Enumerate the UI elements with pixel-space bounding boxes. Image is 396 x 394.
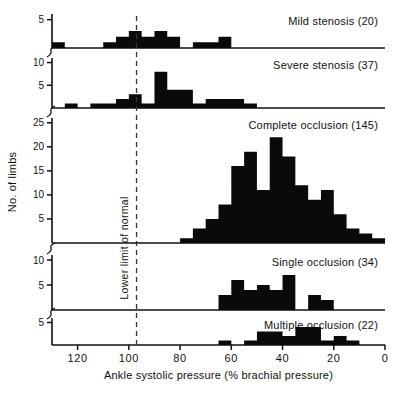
axis-break-mark [47, 243, 55, 254]
y-tick-label: 5 [38, 80, 44, 91]
y-tick-label: 5 [38, 213, 44, 224]
y-tick-label: 25 [33, 117, 45, 128]
panel-single-occlusion: 510Single occlusion (34) [33, 255, 385, 311]
y-tick-label: 10 [33, 57, 45, 68]
y-tick-label: 15 [33, 165, 45, 176]
y-tick-label: 5 [38, 14, 44, 25]
panel-label-mild-stenosis: Mild stenosis (20) [288, 15, 378, 27]
lower-limit-label: Lower limit of normal [118, 196, 130, 299]
x-tick-label: 40 [276, 352, 289, 364]
x-tick-label: 20 [327, 352, 340, 364]
y-tick-label: 5 [38, 317, 44, 328]
x-tick-label: 120 [68, 352, 88, 364]
y-tick-label: 5 [38, 280, 44, 291]
x-tick-label: 0 [382, 352, 389, 364]
histogram-bars [219, 275, 334, 310]
y-tick-label: 10 [33, 255, 45, 266]
histogram-bars [65, 72, 257, 108]
y-axis-title: No. of limbs [6, 151, 18, 212]
panel-multiple-occlusion: 5Multiple occlusion (22) [38, 317, 385, 345]
panel-label-complete-occlusion: Complete occlusion (145) [248, 119, 378, 131]
panel-label-multiple-occlusion: Multiple occlusion (22) [264, 319, 378, 331]
histogram-bars [180, 137, 385, 243]
x-tick-label: 100 [119, 352, 139, 364]
y-tick-label: 10 [33, 189, 45, 200]
panel-label-single-occlusion: Single occlusion (34) [272, 256, 378, 268]
x-tick-label: 80 [173, 352, 186, 364]
panel-mild-stenosis: 5Mild stenosis (20) [38, 14, 385, 48]
panel-label-severe-stenosis: Severe stenosis (37) [273, 59, 378, 71]
histogram-figure: 5Mild stenosis (20)510Severe stenosis (3… [0, 0, 396, 394]
chart-canvas: 5Mild stenosis (20)510Severe stenosis (3… [0, 0, 396, 394]
histogram-bars [52, 31, 231, 48]
panel-complete-occlusion: 510152025Complete occlusion (145) [33, 117, 385, 243]
x-axis-title: Ankle systolic pressure (% brachial pres… [104, 369, 333, 381]
panel-severe-stenosis: 510Severe stenosis (37) [33, 57, 385, 108]
y-tick-label: 20 [33, 141, 45, 152]
x-tick-label: 60 [225, 352, 238, 364]
